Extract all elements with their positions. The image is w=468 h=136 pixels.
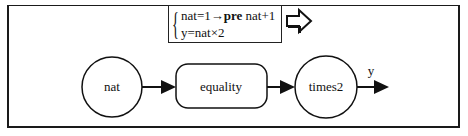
edge-nat-equality [142, 80, 176, 94]
node-nat: nat [82, 57, 142, 117]
node-times2-label: times2 [309, 79, 344, 94]
node-times2: times2 [295, 56, 357, 118]
node-nat-label: nat [104, 79, 120, 94]
edge-equality-times2 [267, 80, 295, 94]
edge-output-label: y [368, 63, 375, 78]
edge-output-y: y [357, 63, 389, 94]
flow-diagram: nat equality times2 y [0, 0, 468, 136]
outline-right-arrow-icon [287, 10, 311, 33]
node-equality: equality [176, 64, 267, 108]
node-equality-label: equality [200, 79, 242, 94]
